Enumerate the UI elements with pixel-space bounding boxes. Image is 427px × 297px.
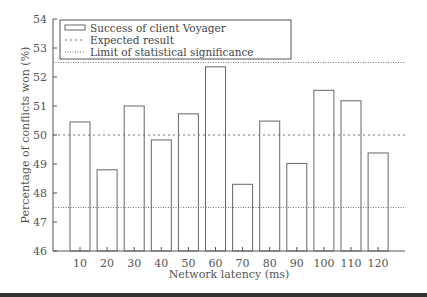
y-tick-label: 46 <box>33 245 47 258</box>
bar <box>178 114 198 251</box>
x-tick-label: 20 <box>100 257 114 270</box>
legend-label: Limit of statistical significance <box>90 46 254 58</box>
bar <box>314 90 334 251</box>
bar <box>70 122 90 251</box>
x-tick-label: 30 <box>127 257 141 270</box>
legend-label: Success of client Voyager <box>90 22 227 34</box>
x-tick-label: 90 <box>290 257 304 270</box>
y-tick-label: 50 <box>33 129 47 142</box>
y-tick-label: 47 <box>33 216 47 229</box>
y-tick-label: 48 <box>33 187 47 200</box>
y-tick-label: 49 <box>33 158 47 171</box>
y-axis-label: Percentage of conflicts won (%) <box>19 47 32 224</box>
legend-label: Expected result <box>90 34 175 46</box>
x-tick-label: 40 <box>154 257 168 270</box>
x-tick-label: 100 <box>313 257 334 270</box>
y-tick-label: 52 <box>33 71 47 84</box>
bar <box>233 184 253 251</box>
bar <box>151 140 171 251</box>
bar-chart: 4647484950515253541020304050607080901001… <box>0 0 427 297</box>
x-axis-label: Network latency (ms) <box>169 268 290 281</box>
bar <box>206 67 226 251</box>
y-tick-label: 53 <box>33 42 47 55</box>
x-tick-label: 120 <box>368 257 389 270</box>
bar <box>341 101 361 251</box>
x-tick-label: 10 <box>73 257 87 270</box>
bar <box>124 106 144 251</box>
bottom-border <box>0 293 427 297</box>
x-tick-label: 110 <box>341 257 362 270</box>
y-tick-label: 51 <box>33 100 47 113</box>
y-tick-label: 54 <box>33 13 47 26</box>
bar <box>260 121 280 251</box>
bar <box>368 153 388 251</box>
bar <box>97 170 117 251</box>
